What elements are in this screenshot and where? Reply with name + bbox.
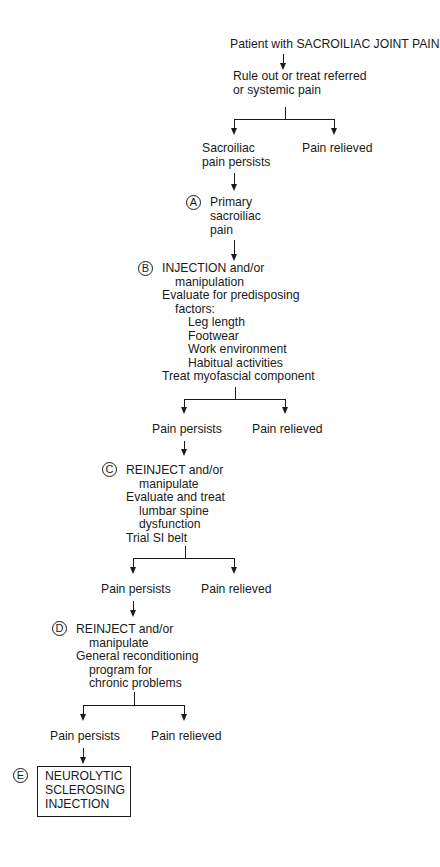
branch-relieved-label: Pain relieved [252,423,322,437]
arrow-down-icon [282,407,288,414]
step-text: NEUROLYTIC [45,770,123,784]
arrow-down-icon [130,567,136,574]
flowchart-title: Patient with SACROILIAC JOINT PAIN [230,38,440,52]
branch-line [133,558,235,559]
step-marker-a: A [186,195,201,210]
step-text: REINJECT and/or [76,623,173,637]
branch-persists-label: Sacroiliac [202,142,255,156]
step-text: Primary [210,196,252,210]
arrow-down-icon [231,254,237,261]
arrow-down-icon [231,184,237,191]
step-text: INJECTION [45,798,109,812]
branch-persists-label: Pain persists [152,423,222,437]
step-text: Evaluate and treat [126,491,225,505]
step-text: REINJECT and/or [126,464,223,478]
arrow-down-icon [231,128,237,135]
step-text: sacroiliac [210,210,261,224]
arrow-down-icon [130,610,136,617]
step-text: Treat myofascial component [162,370,315,384]
step-text: chronic problems [89,677,182,691]
arrow-down-icon [181,407,187,414]
step-text: Trial SI belt [126,532,187,546]
step-text: Evaluate for predisposing [162,289,300,303]
step-text: Work environment [188,343,287,357]
arrow-down-icon [80,714,86,721]
arrow-down-icon [181,714,187,721]
branch-line [234,119,335,120]
step-marker-c: C [102,462,117,477]
connector-line [234,240,235,255]
step-text: Leg length [188,316,245,330]
connector-line [134,692,135,706]
step-text: pain [210,224,233,238]
step-text: General reconditioning [76,650,199,664]
branch-line [83,705,185,706]
branch-relieved-label: Pain relieved [201,583,271,597]
branch-persists-label: pain persists [202,156,270,170]
step-text: or systemic pain [233,84,321,98]
arrow-down-icon [80,757,86,764]
branch-relieved-label: Pain relieved [302,142,372,156]
step-marker-e: E [13,768,28,783]
step-marker-b: B [138,261,153,276]
branch-persists-label: Pain persists [101,583,171,597]
step-text: dysfunction [139,518,201,532]
arrow-down-icon [181,449,187,456]
step-text: SCLEROSING [45,784,125,798]
step-text: Rule out or treat referred [233,70,366,84]
step-text: INJECTION and/or [162,262,264,276]
branch-persists-label: Pain persists [50,730,120,744]
branch-relieved-label: Pain relieved [151,730,221,744]
branch-line [184,399,286,400]
arrow-down-icon [331,128,337,135]
arrow-down-icon [231,567,237,574]
step-marker-d: D [52,621,67,636]
